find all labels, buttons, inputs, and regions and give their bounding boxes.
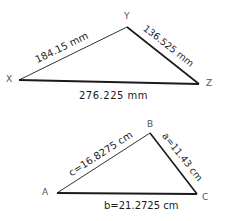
triangles-svg: [0, 0, 228, 221]
vertex-label-z: Z: [206, 79, 212, 88]
vertex-label-a: A: [42, 188, 48, 197]
side-xz: [19, 80, 199, 84]
diagram-canvas: X Y Z 184.15 mm 136.525 mm 276.225 mm A …: [0, 0, 228, 221]
side-c-ab: [57, 133, 150, 193]
side-label-b: b=21.2725 cm: [104, 201, 179, 211]
vertex-label-b: B: [147, 120, 153, 129]
vertex-label-y: Y: [124, 12, 130, 21]
side-label-xz: 276.225 mm: [79, 91, 148, 101]
side-b-ac: [57, 193, 197, 194]
vertex-label-x: X: [6, 75, 12, 84]
vertex-label-c: C: [202, 193, 208, 202]
